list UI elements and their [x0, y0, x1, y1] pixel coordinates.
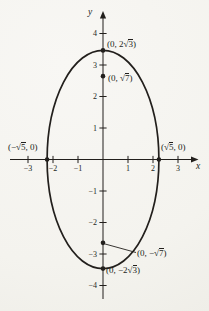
- point-marker: [101, 266, 106, 271]
- label-text: (0, 2√: [107, 39, 128, 49]
- label-text: (0, √: [108, 73, 125, 83]
- y-tick-label: −2: [79, 218, 97, 227]
- x-tick-label: 2: [145, 164, 161, 173]
- label-text: ): [133, 39, 136, 49]
- point-marker: [101, 241, 106, 246]
- point-label-right-intercept: (√5, 0): [161, 142, 185, 152]
- point-label-left-intercept: (−√5, 0): [8, 142, 38, 152]
- point-label-lower-focus: (0, −√7): [137, 248, 167, 258]
- label-text: (√: [161, 142, 169, 152]
- y-axis-arrow-icon: [100, 11, 106, 19]
- plot-canvas: [0, 0, 209, 311]
- label-text: ): [137, 265, 140, 275]
- point-marker: [45, 157, 50, 162]
- x-tick-label: −1: [70, 164, 86, 173]
- label-text: ): [164, 248, 167, 258]
- label-leader-line: [105, 244, 137, 253]
- label-text: , 0): [26, 142, 38, 152]
- y-tick-label: −1: [79, 187, 97, 196]
- x-tick-label: 1: [120, 164, 136, 173]
- point-label-upper-focus: (0, √7): [108, 73, 132, 83]
- y-tick-label: 4: [79, 29, 97, 38]
- graph-svg: [0, 0, 209, 311]
- label-text: (0, −2√: [106, 265, 133, 275]
- y-tick-label: 3: [79, 61, 97, 70]
- y-tick-label: −3: [79, 250, 97, 259]
- point-marker: [101, 48, 106, 53]
- x-axis-letter: x: [196, 161, 200, 171]
- x-tick-label: 3: [170, 164, 186, 173]
- point-label-top-vertex: (0, 2√3): [107, 39, 136, 49]
- point-marker: [101, 74, 106, 79]
- label-text: , 0): [173, 142, 185, 152]
- y-tick-label: −4: [79, 281, 97, 290]
- y-tick-label: 2: [79, 92, 97, 101]
- label-text: (0, −√: [137, 248, 159, 258]
- point-marker: [157, 157, 162, 162]
- ellipse-graph-figure: y x (0, 2√3) (0, √7) (−√5, 0) (√5, 0) (0…: [0, 0, 209, 311]
- y-axis-letter: y: [88, 7, 92, 17]
- x-tick-label: −2: [45, 164, 61, 173]
- point-label-bottom-vertex: (0, −2√3): [106, 265, 140, 275]
- label-text: ): [129, 73, 132, 83]
- y-tick-label: 1: [79, 124, 97, 133]
- x-tick-label: −3: [20, 164, 36, 173]
- label-text: (−√: [8, 142, 21, 152]
